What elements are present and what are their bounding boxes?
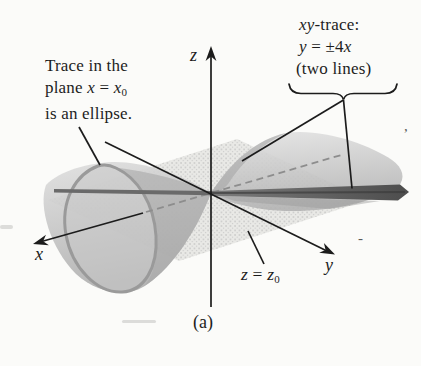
figure-caption: (a) — [193, 312, 213, 333]
xy-note-line1: xy-trace: — [299, 15, 359, 34]
z-axis-label: z — [190, 45, 197, 66]
ellipse-note-leader — [79, 127, 100, 165]
xy-trace-core — [211, 192, 405, 193]
print-comma-mark: , — [404, 118, 408, 135]
ellipse-note-line2: plane x = x0 — [45, 78, 127, 97]
xy-trace-note: xy-trace: y = ±4x (two lines) — [299, 14, 371, 80]
ellipse-note-line1: Trace in the — [45, 56, 128, 75]
xy-note-line2: y = ±4x — [299, 37, 351, 56]
x-axis-label: x — [35, 244, 43, 265]
print-dash-mark: - — [358, 230, 363, 247]
print-smudge-bottom — [122, 320, 156, 323]
ellipse-trace-note: Trace in the plane x = x0 is an ellipse. — [45, 55, 132, 125]
y-axis-label: y — [325, 255, 333, 276]
plane-z0-label: z = z0 — [241, 263, 280, 290]
xy-note-line3: (two lines) — [296, 59, 371, 78]
ellipse-note-line3: is an ellipse. — [45, 104, 132, 123]
print-smudge-left — [0, 225, 13, 229]
underbrace — [289, 84, 397, 100]
quadric-cone-figure: Trace in the plane x = x0 is an ellipse.… — [0, 0, 421, 366]
